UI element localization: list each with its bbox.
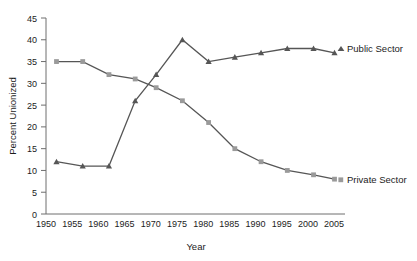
x-tick-label: 2000: [298, 219, 318, 229]
x-tick-label: 1965: [115, 219, 135, 229]
triangle-marker: [53, 159, 59, 165]
y-tick-label: 0: [32, 210, 37, 220]
square-marker: [180, 98, 185, 103]
square-marker: [232, 146, 237, 151]
y-tick-label: 25: [27, 101, 37, 111]
y-tick-label: 45: [27, 14, 37, 24]
square-marker: [154, 85, 159, 90]
x-tick-label: 1975: [167, 219, 187, 229]
series-label-public-sector: Public Sector: [347, 43, 403, 54]
y-tick-label: 20: [27, 122, 37, 132]
x-tick-label: 1985: [219, 219, 239, 229]
square-marker: [285, 168, 290, 173]
x-tick-label: 1995: [272, 219, 292, 229]
series-label-private-sector: Private Sector: [347, 174, 407, 185]
square-marker: [107, 72, 112, 77]
union-membership-chart: 45 40 35 30 25 20 15 10 5 0 1950 1955 19…: [0, 0, 417, 261]
square-marker: [259, 159, 264, 164]
legend-square-icon: [338, 177, 343, 182]
series-layer: [53, 37, 344, 183]
square-marker: [311, 172, 316, 177]
series-line: [56, 62, 334, 180]
x-tick-label: 1950: [36, 219, 56, 229]
chart-canvas: 45 40 35 30 25 20 15 10 5 0 1950 1955 19…: [0, 0, 417, 261]
x-tick-label: 2005: [324, 219, 344, 229]
x-tick-label: 1980: [193, 219, 213, 229]
y-axis-ticks: [41, 18, 46, 214]
y-tick-label: 35: [27, 57, 37, 67]
square-marker: [133, 77, 138, 82]
legend-triangle-icon: [338, 46, 345, 51]
series-line: [56, 40, 334, 166]
x-tick-label: 1960: [88, 219, 108, 229]
y-tick-label: 10: [27, 166, 37, 176]
square-marker: [332, 177, 337, 182]
square-marker: [54, 59, 59, 64]
x-tick-label: 1990: [246, 219, 266, 229]
y-tick-label: 30: [27, 79, 37, 89]
series-private-sector: [54, 59, 337, 181]
series-public-sector: [53, 37, 337, 169]
y-tick-label: 40: [27, 35, 37, 45]
x-tick-label: 1970: [141, 219, 161, 229]
y-tick-label: 15: [27, 144, 37, 154]
y-axis-title: Percent Unionized: [7, 77, 18, 155]
x-tick-label: 1955: [62, 219, 82, 229]
square-marker: [206, 120, 211, 125]
y-tick-label: 5: [32, 188, 37, 198]
square-marker: [80, 59, 85, 64]
triangle-marker: [179, 37, 185, 43]
x-axis-title: Year: [186, 241, 205, 252]
